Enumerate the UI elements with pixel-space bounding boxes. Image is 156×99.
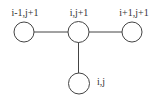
label-i-j: i,j [97, 76, 105, 87]
node-i-minus-1-j-plus-1 [14, 22, 34, 42]
label-i-minus-1-j-plus-1: i-1,j+1 [11, 7, 38, 18]
node-i-plus-1-j-plus-1 [122, 22, 142, 42]
stencil-diagram: i-1,j+1 i,j+1 i+1,j+1 i,j [0, 0, 156, 99]
node-i-j-plus-1 [68, 22, 89, 43]
label-i-j-plus-1: i,j+1 [70, 7, 89, 18]
node-i-j [69, 73, 90, 94]
label-i-plus-1-j-plus-1: i+1,j+1 [119, 7, 148, 18]
